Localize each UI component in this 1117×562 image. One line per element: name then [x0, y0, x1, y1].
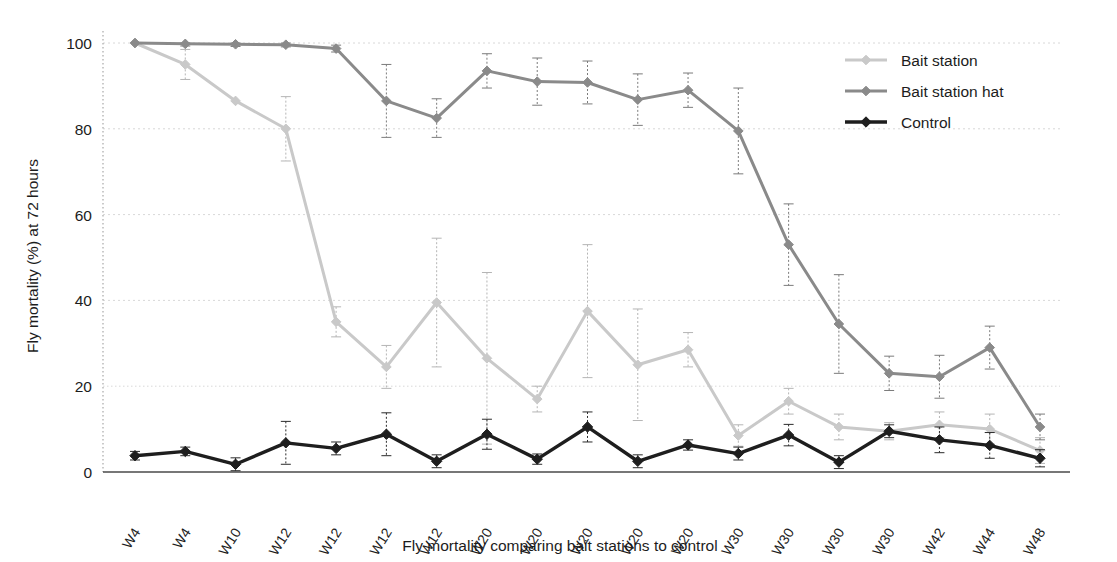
- y-tick-label: 100: [66, 35, 92, 52]
- legend-label: Bait station: [901, 52, 978, 69]
- legend-label: Control: [901, 114, 951, 131]
- y-tick-label: 80: [75, 121, 93, 138]
- x-axis-title: Fly mortality comparing bait stations to…: [402, 537, 717, 554]
- y-tick-label: 40: [75, 292, 93, 309]
- y-tick-label: 20: [75, 378, 93, 395]
- y-tick-label: 0: [83, 464, 92, 481]
- legend-label: Bait station hat: [901, 83, 1004, 100]
- y-axis-title: Fly mortality (%) at 72 hours: [24, 159, 41, 353]
- chart-figure: 020406080100 W4W4W10W12W12W12W12W20W20W2…: [0, 0, 1117, 562]
- line-chart-canvas: 020406080100 W4W4W10W12W12W12W12W20W20W2…: [0, 0, 1117, 562]
- y-tick-label: 60: [75, 207, 93, 224]
